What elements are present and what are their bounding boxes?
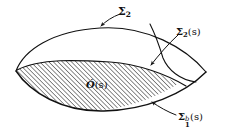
- label-sigma-2-of-s: Σ2(s): [176, 27, 201, 39]
- sigma-2-s-argument: (s): [188, 26, 201, 37]
- label-sigma-1-b-of-s: Σb1(s): [178, 112, 203, 122]
- sigma-1-b-argument: (s): [190, 111, 203, 122]
- sigma-2-subscript: 2: [126, 10, 131, 19]
- label-sigma-2: Σ2: [118, 6, 131, 19]
- leader-arrow-sigma-1-b-s: [152, 102, 176, 115]
- label-region-o-of-s: Ó(s): [86, 80, 108, 90]
- sigma-1-b-subscript: 1: [185, 122, 190, 129]
- figure-canvas: Σ2 Σ2(s) Ó(s) Σb1(s): [0, 0, 227, 136]
- region-o-argument: (s): [95, 79, 108, 90]
- sigma-glyph: Σ: [178, 111, 185, 122]
- sigma-glyph: Σ: [118, 5, 126, 18]
- script-o-glyph: Ó: [86, 79, 95, 90]
